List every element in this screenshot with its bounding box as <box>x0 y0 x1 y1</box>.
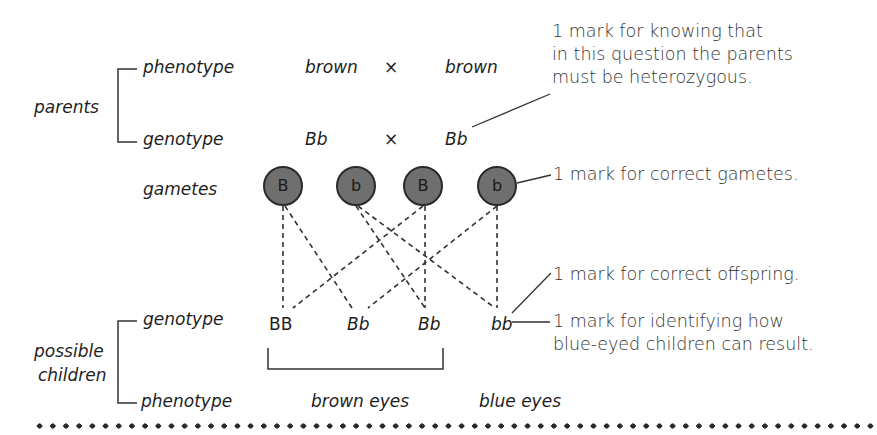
offspring-genotype: BB <box>269 316 292 333</box>
offspring-genotype: Bb <box>347 316 369 333</box>
parent1-phenotype: brown <box>305 59 358 76</box>
parents-label: parents <box>34 99 99 116</box>
phenotype-cross: × <box>384 59 398 76</box>
parents-bracket <box>118 69 137 142</box>
parent2-genotype: Bb <box>445 131 467 148</box>
gametes-label: gametes <box>143 181 217 198</box>
blue-eyes-phenotype: blue eyes <box>479 393 561 410</box>
offspring-genotype: bb <box>491 316 513 333</box>
parents-phenotype-label: phenotype <box>143 59 234 76</box>
gamete-circle: b <box>336 166 376 206</box>
annotation-blue-eyed-2: blue-eyed children can result. <box>553 333 814 356</box>
parents-genotype-label: genotype <box>143 131 223 148</box>
children-phenotype-label: phenotype <box>141 393 232 410</box>
brown-eyes-bracket <box>268 348 443 369</box>
parent1-genotype: Bb <box>305 131 327 148</box>
children-label-line2: children <box>38 367 107 384</box>
gamete-circle: B <box>263 166 303 206</box>
children-bracket <box>118 321 137 403</box>
annotation-heterozygous-2: in this question the parents <box>552 43 793 66</box>
leader-lines <box>472 94 551 322</box>
annotation-heterozygous-1: 1 mark for knowing that <box>552 20 763 43</box>
annotation-gametes: 1 mark for correct gametes. <box>553 163 798 186</box>
annotation-heterozygous-3: must be heterozygous. <box>552 66 753 89</box>
gamete-circle: b <box>477 166 517 206</box>
offspring-genotype: Bb <box>418 316 440 333</box>
annotation-blue-eyed-1: 1 mark for identifying how <box>553 310 784 333</box>
parent2-phenotype: brown <box>445 59 498 76</box>
children-genotype-label: genotype <box>143 311 223 328</box>
gamete-circle: B <box>403 166 443 206</box>
genotype-cross: × <box>384 131 398 148</box>
dotted-divider <box>33 422 877 430</box>
children-label-line1: possible <box>34 343 104 360</box>
cross-lines <box>283 206 497 308</box>
brown-eyes-phenotype: brown eyes <box>311 393 409 410</box>
annotation-offspring: 1 mark for correct offspring. <box>553 263 799 286</box>
